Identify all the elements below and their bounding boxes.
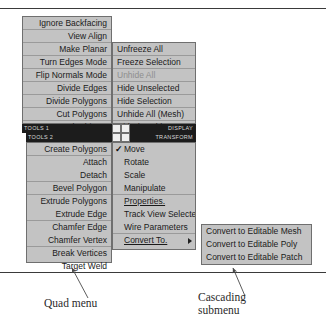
menu-item-detach[interactable]: Detach: [27, 169, 111, 182]
titlebar-tools1[interactable]: TOOLS 1: [22, 124, 112, 133]
menu-item-label: Extrude Polygons: [40, 196, 107, 206]
menu-item-view-align[interactable]: View Align: [23, 30, 111, 43]
menu-item-unhide-all-mesh[interactable]: Unhide All (Mesh): [113, 108, 195, 121]
menu-item-label: Move: [124, 144, 145, 154]
menu-item-extrude-edge[interactable]: Extrude Edge: [27, 208, 111, 221]
submenu-item-convert-editable-patch[interactable]: Convert to Editable Patch: [202, 251, 311, 264]
menu-item-label: Convert to Editable Patch: [206, 252, 302, 262]
menu-item-target-weld[interactable]: Target Weld: [27, 260, 111, 273]
menu-item-label: Convert To.: [124, 235, 167, 245]
menu-item-label: Unhide All: [117, 70, 155, 80]
menu-item-label: Divide Polygons: [46, 96, 107, 106]
menu-item-label: Bevel Polygon: [53, 183, 107, 193]
menu-item-bevel-polygon[interactable]: Bevel Polygon: [27, 182, 111, 195]
menu-item-convert-to[interactable]: Convert To.: [113, 234, 195, 247]
menu-item-manipulate[interactable]: Manipulate: [113, 182, 195, 195]
menu-item-divide-polygons[interactable]: Divide Polygons: [23, 95, 111, 108]
caption-cascading-submenu: Cascading submenu: [198, 291, 246, 317]
menu-item-scale[interactable]: Scale: [113, 169, 195, 182]
quad-panel-transform: ✓ Move Rotate Scale Manipulate Propertie…: [112, 142, 196, 250]
menu-item-chamfer-edge[interactable]: Chamfer Edge: [27, 221, 111, 234]
titlebar-connector-box: [121, 124, 130, 133]
titlebar-label: TRANSFORM: [155, 133, 193, 142]
menu-item-label: Detach: [80, 170, 107, 180]
menu-item-label: View Align: [68, 31, 107, 41]
menu-item-label: Track View Selected: [124, 209, 195, 219]
menu-item-freeze-selection[interactable]: Freeze Selection: [113, 56, 195, 69]
menu-item-turn-edges-mode[interactable]: Turn Edges Mode: [23, 56, 111, 69]
titlebar-connector-box: [112, 124, 121, 133]
menu-item-wire-parameters[interactable]: Wire Parameters: [113, 221, 195, 234]
menu-item-properties[interactable]: Properties.: [113, 195, 195, 208]
titlebar-label: DISPLAY: [168, 124, 193, 133]
menu-item-make-planar[interactable]: Make Planar: [23, 43, 111, 56]
checkmark-icon: ✓: [115, 143, 123, 156]
menu-item-label: Unhide All (Mesh): [117, 109, 184, 119]
quad-panel-tools1: Ignore Backfacing View Align Make Planar…: [22, 16, 112, 124]
menu-item-flip-normals-mode[interactable]: Flip Normals Mode: [23, 69, 111, 82]
menu-item-label: Hide Selection: [117, 96, 172, 106]
menu-item-label: Unfreeze All: [117, 44, 163, 54]
submenu-item-convert-editable-mesh[interactable]: Convert to Editable Mesh: [202, 225, 311, 238]
triangle-right-icon: [188, 238, 192, 244]
menu-item-label: Make Planar: [59, 44, 107, 54]
menu-item-track-view-selected[interactable]: Track View Selected: [113, 208, 195, 221]
titlebar-transform[interactable]: TRANSFORM: [130, 133, 196, 142]
menu-item-rotate[interactable]: Rotate: [113, 156, 195, 169]
menu-item-ignore-backfacing[interactable]: Ignore Backfacing: [23, 17, 111, 30]
menu-item-hide-unselected[interactable]: Hide Unselected: [113, 82, 195, 95]
titlebar-connector-box: [121, 133, 130, 142]
menu-item-label: Flip Normals Mode: [36, 70, 107, 80]
menu-item-cut-polygons[interactable]: Cut Polygons: [23, 108, 111, 121]
quad-panel-display: Unfreeze All Freeze Selection Unhide All…: [112, 42, 196, 124]
titlebar-display[interactable]: DISPLAY: [130, 124, 196, 133]
submenu-item-convert-editable-poly[interactable]: Convert to Editable Poly: [202, 238, 311, 251]
menu-item-unfreeze-all[interactable]: Unfreeze All: [113, 43, 195, 56]
menu-item-move[interactable]: ✓ Move: [113, 143, 195, 156]
menu-item-label: Convert to Editable Poly: [206, 239, 297, 249]
menu-item-label: Attach: [83, 157, 107, 167]
menu-item-label: Break Vertices: [52, 248, 107, 258]
cascading-submenu: Convert to Editable Mesh Convert to Edit…: [201, 224, 312, 265]
menu-item-unhide-all: Unhide All: [113, 69, 195, 82]
titlebar-connector-box: [112, 133, 121, 142]
menu-item-label: Properties.: [124, 196, 165, 206]
menu-item-label: Turn Edges Mode: [40, 57, 107, 67]
menu-item-create-polygons[interactable]: Create Polygons: [27, 143, 111, 156]
menu-item-divide-edges[interactable]: Divide Edges: [23, 82, 111, 95]
titlebar-label: TOOLS 2: [28, 133, 53, 142]
quad-panel-tools2: Create Polygons Attach Detach Bevel Poly…: [26, 142, 112, 263]
menu-item-label: Create Polygons: [44, 144, 107, 154]
titlebar-tools2[interactable]: TOOLS 2: [26, 133, 112, 142]
menu-item-label: Manipulate: [124, 183, 166, 193]
menu-item-attach[interactable]: Attach: [27, 156, 111, 169]
menu-item-label: Chamfer Edge: [52, 222, 107, 232]
menu-item-label: Cut Polygons: [56, 109, 107, 119]
menu-item-label: Convert to Editable Mesh: [206, 226, 301, 236]
menu-item-break-vertices[interactable]: Break Vertices: [27, 247, 111, 260]
menu-item-label: Rotate: [124, 157, 149, 167]
menu-item-label: Hide Unselected: [117, 83, 179, 93]
titlebar-label: TOOLS 1: [24, 124, 49, 133]
menu-item-chamfer-vertex[interactable]: Chamfer Vertex: [27, 234, 111, 247]
top-divider-rule: [0, 8, 326, 9]
menu-item-label: Chamfer Vertex: [48, 235, 107, 245]
figure-root: Ignore Backfacing View Align Make Planar…: [0, 0, 326, 330]
menu-item-extrude-polygons[interactable]: Extrude Polygons: [27, 195, 111, 208]
menu-item-hide-selection[interactable]: Hide Selection: [113, 95, 195, 108]
menu-item-label: Divide Edges: [57, 83, 107, 93]
menu-item-label: Wire Parameters: [124, 222, 188, 232]
menu-item-label: Target Weld: [62, 261, 107, 271]
menu-item-label: Freeze Selection: [117, 57, 181, 67]
menu-item-label: Ignore Backfacing: [39, 18, 107, 28]
menu-item-label: Extrude Edge: [55, 209, 107, 219]
menu-item-label: Scale: [124, 170, 145, 180]
caption-quad-menu: Quad menu: [44, 297, 97, 310]
